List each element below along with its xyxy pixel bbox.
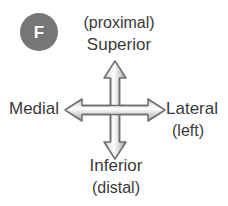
- four-way-directional-arrow-icon: [63, 59, 167, 161]
- inferior-secondary-label: (distal): [0, 178, 228, 198]
- lateral-label: Lateral: [166, 99, 218, 119]
- anatomical-orientation-figure: F (proximal) Superior Medial Lateral (le…: [0, 0, 228, 206]
- superior-label: Superior: [0, 35, 228, 55]
- superior-secondary-label: (proximal): [0, 13, 228, 33]
- medial-label: Medial: [9, 99, 59, 119]
- lateral-secondary-label: (left): [172, 121, 204, 141]
